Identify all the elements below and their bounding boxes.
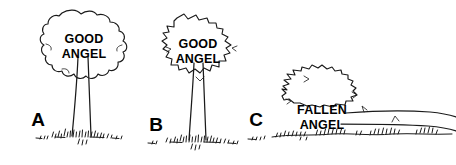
tree-a-crown-nib-lower [62, 69, 69, 73]
tree-a-crown-nib-left [46, 44, 51, 50]
panel-a-caption-line1: GOOD [65, 32, 104, 46]
panel-b-caption-line1: GOOD [179, 37, 218, 51]
panel-c-caption-line1: FALLEN [297, 103, 347, 117]
tree-a-trunk-right [88, 57, 91, 136]
tree-c-crown-notch-top [304, 76, 309, 82]
panel-letter-b: B [149, 114, 163, 135]
tree-condition-figure: GOOD ANGEL GOOD ANGEL FALLEN ANGEL A B C [0, 0, 456, 165]
tree-c-fallen-crown-outline [282, 65, 357, 107]
panel-b-caption-line2: ANGEL [176, 52, 221, 66]
panel-c-caption-line2: ANGEL [300, 118, 345, 132]
panel-a-caption-line2: ANGEL [62, 47, 107, 61]
panel-c-illustration [248, 65, 456, 140]
panel-a-caption: GOOD ANGEL [62, 32, 107, 61]
figure-artwork: GOOD ANGEL GOOD ANGEL FALLEN ANGEL A B C [0, 0, 456, 165]
panel-letter-a: A [31, 109, 45, 130]
tree-c-branch-stub [392, 116, 399, 122]
panel-b-caption: GOOD ANGEL [176, 37, 221, 66]
tree-a-crown-nib-right [117, 45, 122, 51]
tree-a-trunk-left [72, 57, 78, 136]
panel-c-caption: FALLEN ANGEL [297, 103, 347, 132]
tree-b-trunk-right [203, 63, 206, 140]
tree-b-crown-nib-bottom [196, 77, 204, 81]
tree-b-grass [148, 135, 238, 150]
tree-b-trunk-left [189, 63, 194, 140]
tree-c-fallen-trunk-lower [341, 124, 456, 131]
panel-a-illustration [36, 10, 127, 145]
tree-c-fallen-trunk-upper [346, 111, 456, 117]
tree-c-ground-line [272, 134, 452, 137]
tree-b-crown-nib-right [232, 46, 237, 51]
panel-letter-c: C [249, 109, 263, 130]
tree-a-grass [36, 129, 122, 145]
